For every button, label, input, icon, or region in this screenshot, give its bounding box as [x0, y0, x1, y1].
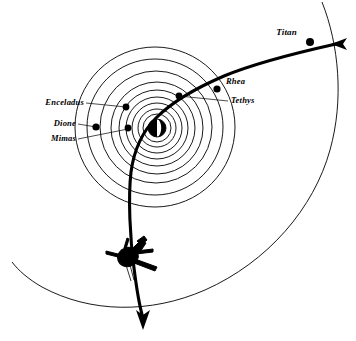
label-mimas: Mimas	[14, 134, 76, 143]
diagram-canvas	[0, 0, 356, 341]
label-enceladus: Enceladus	[14, 98, 84, 107]
moon-dot-rhea	[213, 85, 220, 92]
label-titan: Titan	[242, 28, 297, 37]
moon-dot-dione	[92, 123, 99, 130]
spacecraft-rtg-boom-lower	[134, 259, 157, 271]
moon-dot-titan	[306, 38, 314, 46]
titan-orbit-arc	[12, 2, 338, 307]
moon-dot-enceladus	[123, 104, 130, 111]
leader-line-enceladus	[86, 103, 126, 107]
moon-dot-mimas	[125, 125, 132, 132]
orbital-trajectory-figure: Titan Rhea Tethys Enceladus Dione Mimas	[0, 0, 356, 341]
label-dione: Dione	[14, 119, 76, 128]
moon-dot-tethys	[176, 93, 183, 100]
spacecraft-magnetometer-boom	[106, 251, 118, 257]
label-tethys: Tethys	[231, 96, 291, 105]
label-rhea: Rhea	[226, 77, 286, 86]
